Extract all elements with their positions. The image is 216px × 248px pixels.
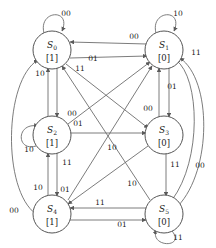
edge-label-s5-s4: 11 [95, 198, 105, 207]
fsm-diagram-canvas: S0 [1] S1 [0] S2 [1] S3 [0, 0, 216, 248]
edge-label-s0-s1: 01 [88, 54, 98, 63]
edge-label-s0-s3: 11 [75, 64, 85, 73]
state-node-s3[interactable]: S3 [0] [145, 116, 183, 154]
edge-label-s4-s5: 01 [117, 220, 127, 229]
state-node-s2[interactable]: S2 [1] [33, 116, 71, 154]
state-s2-subscript: 2 [53, 129, 57, 136]
edge-label-s3-s4: 10 [107, 143, 117, 152]
edge-s1-s0 [70, 42, 147, 44]
state-s4-subscript: 4 [53, 208, 57, 215]
edge-label-s3-s5: 11 [170, 160, 180, 169]
state-node-s1[interactable]: S1 [0] [145, 31, 183, 69]
state-s5-output: [0] [158, 217, 170, 227]
self-loop-label-s2: 10 [24, 145, 34, 154]
edge-s0-s1 [70, 56, 147, 58]
fsm-svg: S0 [1] S1 [0] S2 [1] S3 [0, 0, 216, 248]
state-node-s4[interactable]: S4 [1] [33, 195, 71, 233]
state-s1-output: [0] [158, 53, 170, 63]
edge-label-s2-s3: 01 [73, 119, 83, 128]
state-s4-output: [1] [46, 217, 58, 227]
edge-label-s4-s1: 10 [127, 179, 137, 188]
nodes-layer: S0 [1] S1 [0] S2 [1] S3 [33, 31, 183, 233]
state-s0-output: [1] [46, 53, 58, 63]
self-loop-label-s0: 00 [61, 9, 71, 18]
edge-label-s3-s1: 00 [143, 104, 153, 113]
state-s2-output: [1] [46, 138, 58, 148]
state-s0-subscript: 0 [53, 44, 57, 51]
edge-label-s5-s1-00: 00 [195, 161, 205, 170]
state-s3-subscript: 3 [165, 129, 169, 136]
edge-label-s2-s4-11: 11 [62, 158, 72, 167]
edge-label-s2-s4-01: 01 [60, 185, 70, 194]
state-s1-subscript: 1 [165, 44, 169, 51]
state-s3-output: [0] [158, 138, 170, 148]
edge-s3-s4 [68, 146, 148, 204]
state-node-s0[interactable]: S0 [1] [33, 31, 71, 69]
state-node-s5[interactable]: S5 [0] [145, 195, 183, 233]
edge-label-s4-s2: 10 [33, 183, 43, 192]
edge-label-s0-s2: 00 [67, 109, 77, 118]
self-loop-label-s1: 10 [173, 9, 183, 18]
edge-label-s2-s0: 10 [35, 69, 45, 78]
edge-label-s5-s1-11: 11 [191, 48, 201, 57]
edge-label-s1-s0: 00 [129, 32, 139, 41]
state-s5-subscript: 5 [165, 208, 169, 215]
edge-label-s4-s0: 00 [9, 206, 19, 215]
edge-label-s1-s3: 01 [167, 82, 177, 91]
self-loop-label-s5: 11 [173, 233, 183, 242]
